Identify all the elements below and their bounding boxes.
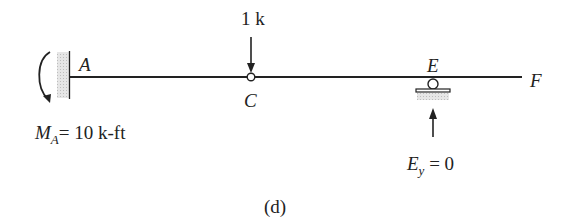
fixed-support-icon (57, 51, 70, 99)
vertical-reaction-label: Ey = 0 (407, 154, 454, 173)
point-label-a: A (79, 55, 91, 74)
point-label-c: C (244, 91, 257, 110)
moment-reaction-label: MA= 10 k-ft (35, 123, 125, 142)
roller-support-icon (416, 79, 450, 100)
beam-diagram (0, 0, 573, 221)
hinge-icon (247, 73, 255, 81)
figure-caption: (d) (264, 197, 286, 216)
reaction-arrow-icon (429, 108, 437, 137)
point-label-e: E (427, 56, 439, 75)
moment-arrow-icon (39, 52, 51, 103)
point-label-f: F (530, 71, 542, 90)
load-arrow-icon (247, 37, 255, 73)
load-label: 1 k (241, 9, 265, 28)
